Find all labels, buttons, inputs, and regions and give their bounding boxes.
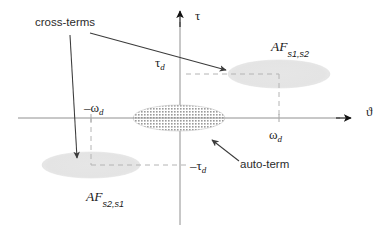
af-s2-s1-main: AF [86, 189, 103, 204]
af-s2-s1-sub: s2,s1 [103, 199, 125, 209]
omega-d-positive-sub: d [278, 134, 283, 144]
omega-d-positive-label: ωd [269, 126, 282, 142]
omega-d-negative-main: –ω [84, 100, 99, 115]
omega-d-negative-label: –ωd [84, 99, 104, 115]
cross-terms-label: cross-terms [35, 17, 95, 29]
diagram-canvas [0, 0, 382, 228]
auto-term-label: auto-term [240, 159, 289, 171]
ambiguity-function-diagram: cross-terms auto-term τ ϑ τd –τd ωd –ωd … [0, 0, 382, 228]
tau-d-positive-label: τd [155, 54, 165, 70]
axis-label-tau: τ [195, 9, 200, 22]
af-s1-s2-label: AFs1,s2 [271, 38, 309, 57]
auto-term-ellipse [133, 105, 225, 131]
tau-d-negative-main: –τ [190, 158, 202, 173]
omega-d-negative-sub: d [99, 107, 104, 117]
cross-terms-arrow-to-lower-left [70, 35, 77, 158]
auto-term-arrow [212, 140, 239, 161]
tau-d-positive-sub: d [160, 62, 165, 72]
omega-d-positive-main: ω [269, 127, 278, 142]
tau-d-negative-label: –τd [190, 157, 206, 173]
af-s1-s2-sub: s1,s2 [288, 49, 310, 59]
af-s2-s1-label: AFs2,s1 [86, 188, 124, 207]
axis-label-vartheta: ϑ [366, 105, 372, 118]
af-s1-s2-main: AF [271, 39, 288, 54]
tau-d-negative-sub: d [202, 165, 207, 175]
